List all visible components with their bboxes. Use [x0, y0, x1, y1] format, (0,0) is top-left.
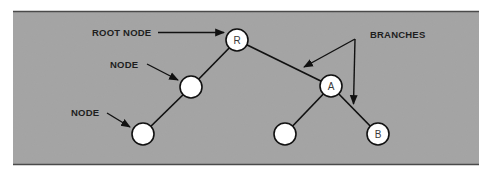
- node-b: B: [367, 123, 389, 145]
- label-node-lower: NODE: [71, 107, 99, 118]
- node-root: R: [226, 29, 248, 51]
- node-bottom-left: [132, 123, 154, 145]
- label-branches: BRANCHES: [370, 29, 425, 40]
- tree-diagram: R A B ROOT NODE NODE NODE BRANCHES: [0, 0, 491, 172]
- node-a-letter: A: [328, 81, 335, 92]
- label-node-upper: NODE: [110, 59, 138, 70]
- node-bottom-left-circle: [132, 123, 154, 145]
- node-bottom-mid-circle: [274, 123, 296, 145]
- node-b-letter: B: [375, 129, 382, 140]
- node-a: A: [320, 75, 342, 97]
- node-mid-left: [180, 76, 202, 98]
- node-root-letter: R: [233, 35, 240, 46]
- node-bottom-mid: [274, 123, 296, 145]
- label-root-node: ROOT NODE: [92, 27, 151, 38]
- node-mid-left-circle: [180, 76, 202, 98]
